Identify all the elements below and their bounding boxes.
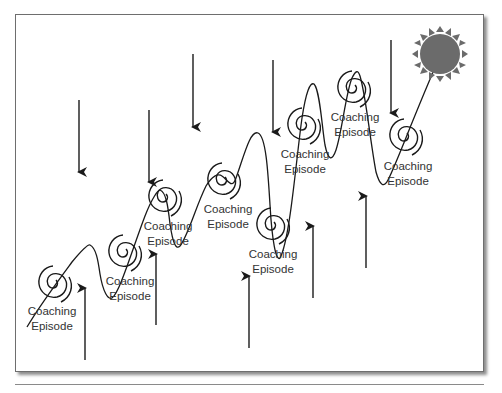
episode-label-line1: Coaching: [249, 248, 298, 260]
episode-label-line2: Episode: [252, 263, 294, 275]
episode-label-line1: Coaching: [144, 220, 193, 232]
coaching-episode-7: Coaching Episode: [331, 71, 380, 138]
episode-label-line2: Episode: [284, 163, 326, 175]
episode-label-line2: Episode: [31, 320, 73, 332]
episode-label-line1: Coaching: [331, 111, 380, 123]
coaching-episode-3: Coaching Episode: [144, 180, 193, 247]
coaching-path-diagram: Coaching Episode Coaching Episode Coachi…: [0, 0, 502, 393]
episode-label-line1: Coaching: [106, 275, 155, 287]
episode-label-line1: Coaching: [384, 160, 433, 172]
sun-icon: [412, 26, 468, 82]
episode-label-line2: Episode: [387, 175, 429, 187]
episode-label-line1: Coaching: [204, 203, 253, 215]
coaching-episode-1: Coaching Episode: [28, 266, 77, 332]
coaching-episode-8: Coaching Episode: [384, 119, 433, 187]
episode-label-line2: Episode: [147, 235, 189, 247]
episode-label-line1: Coaching: [28, 305, 77, 317]
episode-label-line2: Episode: [207, 218, 249, 230]
episode-label-line2: Episode: [109, 290, 151, 302]
growth-path-line: [27, 56, 440, 327]
spiral-icon: [208, 163, 240, 199]
spiral-icon: [288, 108, 320, 144]
episode-label-line1: Coaching: [281, 148, 330, 160]
spiral-icon: [257, 208, 289, 244]
episode-label-line2: Episode: [334, 126, 376, 138]
coaching-episode-4: Coaching Episode: [204, 163, 253, 230]
